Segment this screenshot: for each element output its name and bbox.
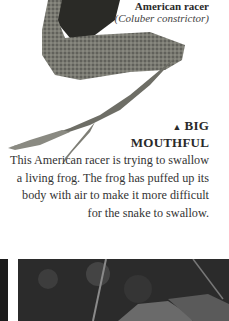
feature-title-line1: BIG — [185, 118, 209, 133]
species-latin-name: (Coluber constrictor) — [115, 12, 209, 24]
feature-heading: ▲BIG MOUTHFUL — [131, 118, 209, 151]
adjacent-photo-edge — [0, 259, 8, 321]
species-caption: American racer (Coluber constrictor) — [115, 0, 209, 24]
forest-floor-photo — [18, 259, 229, 321]
triangle-up-icon: ▲ — [172, 122, 181, 132]
feature-body-text: This American racer is trying to swallow… — [9, 152, 209, 222]
species-common-name: American racer — [115, 0, 209, 12]
feature-title-line2: MOUTHFUL — [131, 135, 209, 151]
